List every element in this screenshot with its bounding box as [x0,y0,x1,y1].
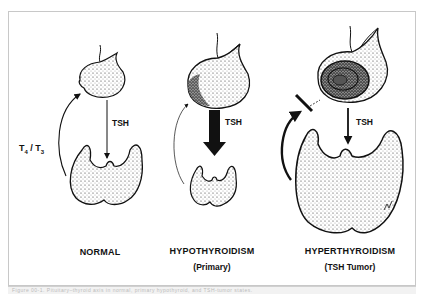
hyperthyroid-thyroid [296,130,403,233]
label-hyperthyroidism: HYPERTHYROIDISM [305,246,396,256]
hypothyroid-feedback-arrow [174,104,188,184]
t4-t3-label: T4 / T3 [19,143,44,155]
sublabel-tsh-tumor: (TSH Tumor) [325,262,376,272]
normal-pituitary [79,45,125,97]
hypothyroid-tsh-arrow [203,110,226,156]
normal-thyroid [70,145,142,204]
t3-subscript: 3 [41,149,44,155]
hyperthyroid-pituitary [318,26,388,102]
feedback-block-bar [296,95,312,111]
label-hypothyroidism: HYPOTHYROIDISM [170,246,255,256]
figure-caption: Figure 00-1. Pituitary–thyroid axis in n… [12,287,253,293]
label-normal: NORMAL [80,247,121,257]
normal-tsh-label: TSH [112,118,129,128]
hypothyroid-pituitary [188,33,250,108]
hypothyroid-tsh-label: TSH [225,117,242,127]
hypothyroid-thyroid [190,166,236,206]
sublabel-primary: (Primary) [193,262,230,272]
hyperthyroid-feedback-path [310,100,320,106]
hyperthyroid-tsh-label: TSH [356,117,373,127]
